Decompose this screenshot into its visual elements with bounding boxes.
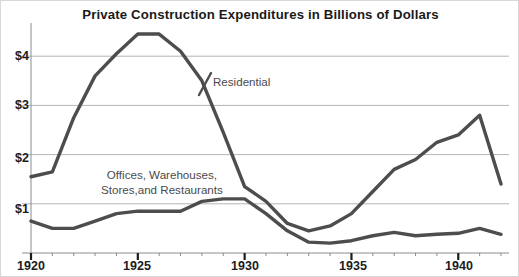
x-axis-tick-label-1935: 1935 bbox=[325, 259, 381, 273]
chart-plot-area bbox=[1, 1, 519, 277]
x-axis-tick-label-1930: 1930 bbox=[217, 259, 273, 273]
y-axis-tick-label-1: $1 bbox=[3, 202, 29, 216]
series-label-line-2: Stores,and Restaurants bbox=[101, 182, 223, 197]
series-label-offices-warehouses-stores-restaurants: Offices, Warehouses, Stores,and Restaura… bbox=[101, 167, 223, 197]
y-axis-tick-label-4: $4 bbox=[3, 49, 29, 63]
y-axis-tick-label-2: $2 bbox=[3, 151, 29, 165]
series-label-residential: Residential bbox=[213, 75, 270, 88]
x-axis-tick-label-1940: 1940 bbox=[431, 259, 487, 273]
series-line-residential bbox=[31, 34, 501, 231]
chart-container: Private Construction Expenditures in Bil… bbox=[0, 0, 519, 277]
x-axis-tick-label-1925: 1925 bbox=[109, 259, 165, 273]
y-axis-tick-label-3: $3 bbox=[3, 98, 29, 112]
series-label-line-1: Offices, Warehouses, bbox=[101, 167, 223, 182]
series-line-offices-warehouses-stores-restaurants bbox=[31, 199, 501, 243]
x-axis-tick-label-1920: 1920 bbox=[3, 259, 59, 273]
